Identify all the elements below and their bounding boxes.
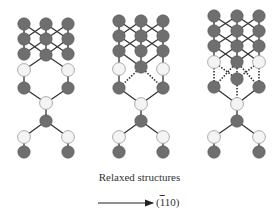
atom-light bbox=[253, 131, 266, 144]
structure-2-atoms bbox=[113, 15, 170, 158]
atom-dark bbox=[135, 115, 147, 127]
atom-dark bbox=[208, 146, 220, 158]
atom-dark bbox=[40, 49, 52, 61]
atom-dark bbox=[253, 81, 265, 93]
atom-dark bbox=[231, 25, 243, 37]
atom-dark bbox=[135, 45, 147, 57]
atom-dark bbox=[231, 115, 243, 127]
atom-light bbox=[157, 131, 170, 144]
atom-light bbox=[62, 131, 75, 144]
atom-light bbox=[208, 131, 221, 144]
atom-dark bbox=[253, 25, 265, 37]
atom-dark bbox=[208, 25, 220, 37]
atom-light bbox=[113, 131, 126, 144]
atom-light bbox=[135, 98, 148, 111]
atom-dark bbox=[231, 73, 243, 85]
atom-dark bbox=[18, 33, 30, 45]
atom-dark bbox=[40, 33, 52, 45]
atom-dark bbox=[253, 40, 265, 52]
atom-dark bbox=[18, 146, 30, 158]
atom-dark bbox=[62, 82, 74, 94]
atom-dark bbox=[62, 48, 74, 60]
direction-rest: 10) bbox=[165, 196, 180, 208]
atoms-layer bbox=[18, 10, 266, 158]
atom-dark bbox=[208, 40, 220, 52]
atom-light bbox=[18, 131, 31, 144]
atom-light bbox=[231, 98, 244, 111]
atom-dark bbox=[135, 30, 147, 42]
atom-dark bbox=[157, 82, 169, 94]
atom-dark bbox=[62, 146, 74, 158]
atom-dark bbox=[208, 81, 220, 93]
atom-dark bbox=[157, 45, 169, 57]
atom-dark bbox=[135, 61, 147, 73]
atom-light bbox=[157, 63, 170, 76]
atom-light bbox=[40, 97, 53, 110]
atom-dark bbox=[113, 30, 125, 42]
atom-light bbox=[18, 64, 31, 77]
atom-dark bbox=[113, 82, 125, 94]
atom-dark bbox=[113, 15, 125, 27]
atom-dark bbox=[62, 33, 74, 45]
atom-dark bbox=[40, 115, 52, 127]
atom-dark bbox=[157, 30, 169, 42]
atom-dark bbox=[113, 146, 125, 158]
relaxed-structures-figure bbox=[0, 0, 279, 217]
atom-dark bbox=[135, 15, 147, 27]
atom-dark bbox=[18, 18, 30, 30]
atom-dark bbox=[231, 40, 243, 52]
atom-light bbox=[113, 63, 126, 76]
atom-light bbox=[208, 56, 221, 69]
atom-dark bbox=[113, 45, 125, 57]
atom-dark bbox=[208, 10, 220, 22]
direction-label: (110) bbox=[156, 196, 179, 208]
atom-dark bbox=[157, 15, 169, 27]
atom-dark bbox=[62, 18, 74, 30]
atom-dark bbox=[40, 18, 52, 30]
atom-dark bbox=[253, 10, 265, 22]
atom-light bbox=[62, 64, 75, 77]
structure-3-atoms bbox=[208, 10, 266, 158]
atom-dark bbox=[157, 146, 169, 158]
structure-1-atoms bbox=[18, 18, 75, 158]
atom-dark bbox=[231, 56, 243, 68]
caption-relaxed-structures: Relaxed structures bbox=[0, 171, 279, 183]
atom-light bbox=[253, 56, 266, 69]
atom-dark bbox=[18, 48, 30, 60]
atom-dark bbox=[253, 146, 265, 158]
atom-dark bbox=[18, 82, 30, 94]
atom-dark bbox=[231, 10, 243, 22]
